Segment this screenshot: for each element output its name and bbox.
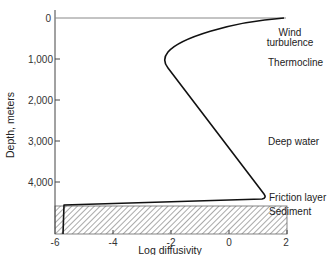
- label-thermocline: Thermocline: [268, 57, 323, 68]
- svg-text:3,000: 3,000: [28, 136, 53, 147]
- svg-text:-6: -6: [51, 237, 60, 248]
- svg-text:0: 0: [226, 237, 232, 248]
- x-axis-label: Log diffusivity: [138, 244, 202, 255]
- svg-text:2,000: 2,000: [28, 95, 53, 106]
- svg-text:1,000: 1,000: [28, 54, 53, 65]
- svg-text:0: 0: [45, 13, 51, 24]
- label-turbulence: turbulence: [267, 37, 314, 48]
- svg-text:4,000: 4,000: [28, 177, 53, 188]
- y-axis-label: Depth, meters: [4, 92, 16, 158]
- diffusivity-curve: [63, 18, 284, 234]
- label-friction-layer: Friction layer: [269, 192, 327, 203]
- svg-text:2: 2: [283, 237, 289, 248]
- label-deep-water: Deep water: [268, 136, 320, 147]
- svg-text:-4: -4: [109, 237, 118, 248]
- diffusivity-chart: 0 1,000 2,000 3,000 4,000 -6 -4 -2 0 2 W…: [0, 0, 336, 255]
- sediment-band: [55, 206, 287, 234]
- label-sediment: Sediment: [269, 206, 311, 217]
